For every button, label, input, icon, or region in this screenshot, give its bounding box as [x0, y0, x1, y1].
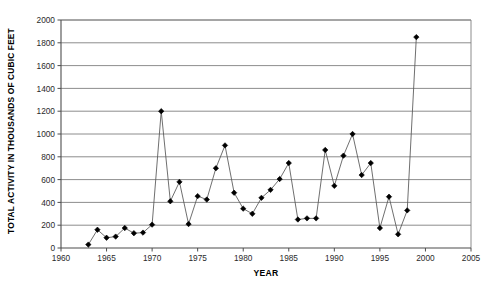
y-tick-label-200: 200 [41, 220, 55, 230]
x-tick-label-2000: 2000 [416, 253, 435, 263]
x-axis-ticks: 1960196519701975198019851990199520002005 [52, 248, 481, 263]
y-tick-label-1600: 1600 [37, 61, 56, 71]
data-point-1980 [241, 206, 246, 211]
data-point-1975 [195, 193, 200, 198]
data-point-1979 [231, 190, 236, 195]
data-point-1963 [86, 242, 91, 247]
data-point-1987 [304, 216, 309, 221]
data-point-1996 [386, 194, 391, 199]
x-tick-label-1975: 1975 [188, 253, 207, 263]
y-tick-label-1800: 1800 [37, 38, 56, 48]
data-point-1974 [186, 221, 191, 226]
data-point-1981 [250, 211, 255, 216]
data-point-1999 [414, 34, 419, 39]
y-tick-label-2000: 2000 [37, 15, 56, 25]
data-point-1990 [332, 183, 337, 188]
data-point-1995 [377, 225, 382, 230]
y-axis-ticks: 0200400600800100012001400160018002000 [37, 15, 61, 253]
data-point-1978 [222, 143, 227, 148]
x-tick-label-1980: 1980 [234, 253, 253, 263]
y-tick-label-1400: 1400 [37, 84, 56, 94]
data-point-1972 [168, 199, 173, 204]
x-tick-label-1990: 1990 [325, 253, 344, 263]
data-point-1992 [350, 131, 355, 136]
x-axis-title: YEAR [61, 268, 471, 278]
y-tick-label-600: 600 [41, 175, 55, 185]
x-tick-label-1965: 1965 [97, 253, 116, 263]
x-tick-label-1960: 1960 [52, 253, 71, 263]
y-tick-label-800: 800 [41, 152, 55, 162]
data-point-1989 [323, 147, 328, 152]
data-markers [86, 34, 419, 247]
data-point-1986 [295, 217, 300, 222]
data-point-1997 [395, 232, 400, 237]
data-point-1985 [286, 160, 291, 165]
x-tick-label-1970: 1970 [143, 253, 162, 263]
x-tick-label-2005: 2005 [462, 253, 481, 263]
line-chart: TOTAL ACTIVITY IN THOUSANDS OF CUBIC FEE… [0, 0, 496, 292]
gridlines [61, 20, 471, 225]
y-tick-label-0: 0 [50, 243, 55, 253]
x-tick-label-1985: 1985 [280, 253, 299, 263]
data-point-1988 [313, 216, 318, 221]
data-point-1968 [131, 230, 136, 235]
data-point-1976 [204, 197, 209, 202]
y-tick-label-1000: 1000 [37, 129, 56, 139]
data-point-1998 [405, 208, 410, 213]
y-tick-label-1200: 1200 [37, 106, 56, 116]
data-point-1971 [159, 109, 164, 114]
y-tick-label-400: 400 [41, 198, 55, 208]
data-point-1991 [341, 153, 346, 158]
data-point-1977 [213, 166, 218, 171]
plot-area: 0200400600800100012001400160018002000196… [0, 0, 496, 292]
x-tick-label-1995: 1995 [371, 253, 390, 263]
